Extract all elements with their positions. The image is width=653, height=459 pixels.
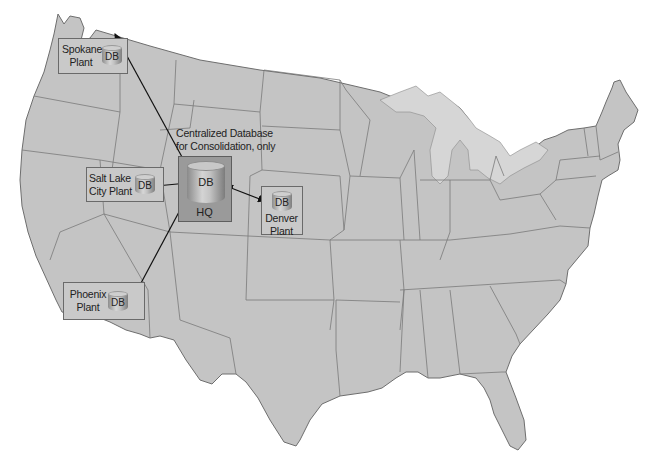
database-cylinder-icon: DB: [135, 174, 155, 196]
plant-label-line2: Plant: [62, 56, 100, 69]
plant-label-line2: Plant: [262, 225, 301, 238]
db-label: DB: [135, 180, 155, 191]
plant-label-line2: City Plant: [89, 185, 133, 198]
database-cylinder-icon: DB: [102, 45, 122, 67]
db-label: DB: [102, 51, 122, 62]
plant-label-line2: Plant: [66, 301, 110, 314]
plant-label-line1: Phoenix: [66, 288, 110, 301]
caption-line2: for Consolidation, only: [176, 140, 275, 153]
hq-box[interactable]: DB HQ: [178, 156, 232, 222]
plant-label-phoenix: Phoenix Plant: [66, 288, 110, 313]
plant-box-salt-lake[interactable]: Salt Lake City Plant DB: [86, 167, 164, 202]
plant-box-phoenix[interactable]: Phoenix Plant DB: [63, 282, 145, 320]
plant-label-salt-lake: Salt Lake City Plant: [89, 172, 133, 197]
plant-box-denver[interactable]: DB Denver Plant: [261, 186, 303, 235]
central-database-caption: Centralized Database for Consolidation, …: [176, 127, 275, 153]
plant-box-spokane[interactable]: Spokane Plant DB: [58, 38, 128, 74]
plant-label-spokane: Spokane Plant: [62, 43, 100, 68]
hq-db-label: DB: [187, 176, 225, 188]
plant-label-line1: Spokane: [62, 43, 100, 56]
us-landmass: [20, 14, 638, 450]
caption-line1: Centralized Database: [176, 127, 275, 140]
plant-label-line1: Salt Lake: [89, 172, 133, 185]
plant-label-denver: Denver Plant: [262, 212, 301, 237]
database-cylinder-icon: DB: [108, 291, 128, 313]
database-cylinder-icon: DB: [272, 191, 292, 213]
plant-label-line1: Denver: [262, 212, 301, 225]
db-label: DB: [108, 297, 128, 308]
hq-database-cylinder-icon: DB: [187, 161, 225, 205]
hq-label: HQ: [179, 206, 230, 218]
db-label: DB: [272, 197, 292, 208]
